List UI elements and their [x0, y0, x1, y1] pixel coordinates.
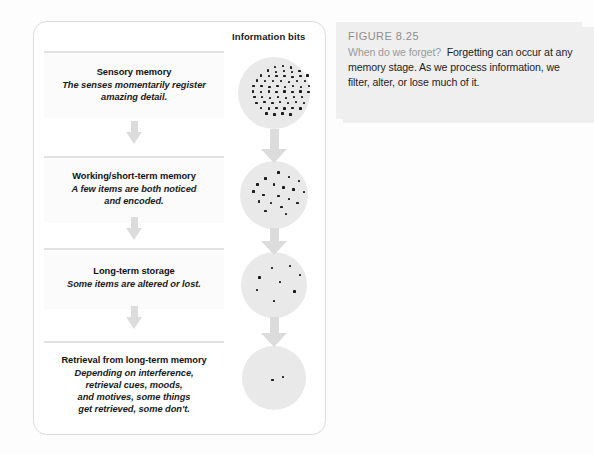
stage-title: Long-term storage	[44, 265, 224, 278]
information-bit-dot	[263, 101, 265, 103]
information-bit-dot	[271, 102, 273, 104]
information-bit-dot	[289, 265, 291, 267]
information-bit-dot	[273, 113, 275, 115]
information-bit-dot	[260, 74, 262, 76]
information-bits-circle-longterm	[241, 252, 307, 318]
information-bit-dot	[275, 107, 277, 109]
information-bit-dot	[283, 90, 285, 92]
information-bit-dot	[288, 81, 290, 83]
stage-flow-arrow-2	[126, 217, 142, 240]
stage-row-sensory-memory: Sensory memory The senses momentarily re…	[44, 66, 224, 103]
stage-divider-3	[44, 248, 224, 250]
information-bit-dot	[291, 107, 293, 109]
connector-shaft	[270, 317, 279, 334]
information-bit-dot	[277, 171, 279, 173]
stage-title: Working/short-term memory	[44, 170, 224, 183]
stage-divider-2	[44, 156, 224, 158]
information-bit-dot	[280, 80, 282, 82]
connector-shaft	[270, 129, 279, 150]
scanned-page: FIGURE 8.25 When do we forget? Forgettin…	[0, 0, 594, 454]
information-bit-dot	[258, 276, 260, 278]
information-bit-dot	[292, 188, 294, 190]
information-bit-dot	[307, 91, 309, 93]
stage-flow-arrow-1	[126, 121, 142, 144]
stage-divider-1	[44, 51, 224, 53]
information-bit-dot	[253, 96, 255, 98]
information-bit-dot	[268, 75, 270, 77]
information-bit-dot	[264, 80, 266, 82]
bits-flow-connector-1	[261, 129, 287, 163]
arrow-head	[126, 132, 142, 144]
connector-head	[261, 333, 287, 347]
information-bit-dot	[291, 91, 293, 93]
stage-row-working-memory: Working/short-term memory A few items ar…	[44, 170, 224, 207]
figure-caption-content: FIGURE 8.25 When do we forget? Forgettin…	[348, 29, 584, 90]
stage-description-line: The senses momentarily register	[44, 79, 224, 91]
stage-description-line: and encoded.	[44, 195, 224, 207]
stage-row-long-term-storage: Long-term storage Some items are altered…	[44, 265, 224, 290]
information-bit-dot	[299, 274, 301, 276]
information-bit-dot	[277, 96, 279, 98]
information-bit-dot	[277, 195, 279, 197]
information-bits-circle-sensory	[238, 57, 310, 129]
connector-head	[261, 149, 287, 163]
stage-description-line: A few items are both noticed	[44, 183, 224, 195]
information-bit-dot	[282, 186, 284, 188]
information-bit-dot	[295, 101, 297, 103]
information-bit-dot	[282, 376, 284, 378]
information-bit-dot	[296, 80, 298, 82]
information-bit-dot	[285, 97, 287, 99]
information-bit-dot	[298, 70, 300, 72]
figure-number-label: FIGURE 8.25	[348, 29, 584, 44]
information-bit-dot	[270, 202, 272, 204]
information-bit-dot	[288, 198, 290, 200]
information-bit-dot	[260, 85, 262, 87]
information-bit-dot	[293, 96, 295, 98]
information-bit-dot	[273, 183, 275, 185]
information-bit-dot	[281, 112, 283, 114]
information-bit-dot	[289, 113, 291, 115]
stage-title: Sensory memory	[44, 66, 224, 79]
information-bit-dot	[290, 66, 292, 68]
stage-description-line: get retrieved, some don't.	[44, 403, 224, 415]
information-bit-dot	[262, 194, 264, 196]
information-bit-dot	[304, 80, 306, 82]
information-bit-dot	[265, 112, 267, 114]
stage-description-line: amazing detail.	[44, 91, 224, 103]
information-bit-dot	[283, 107, 285, 109]
information-bit-dot	[283, 75, 285, 77]
information-bit-dot	[280, 206, 282, 208]
information-bit-dot	[261, 96, 263, 98]
information-bit-dot	[282, 65, 284, 67]
stage-description-line: Some items are altered or lost.	[44, 278, 224, 290]
information-bit-dot	[273, 300, 275, 302]
information-bit-dot	[291, 71, 293, 73]
information-bit-dot	[299, 75, 301, 77]
information-bit-dot	[279, 281, 281, 283]
information-bit-dot	[288, 176, 290, 178]
information-bit-dot	[303, 191, 305, 193]
information-bit-dot	[269, 97, 271, 99]
information-bit-dot	[252, 90, 254, 92]
information-bit-dot	[260, 107, 262, 109]
information-bit-dot	[299, 107, 301, 109]
information-bit-dot	[275, 71, 277, 73]
information-bit-dot	[256, 289, 258, 291]
information-bit-dot	[264, 177, 266, 179]
information-bit-dot	[285, 213, 287, 215]
information-bit-dot	[258, 200, 260, 202]
information-bit-dot	[300, 86, 302, 88]
information-bit-dot	[255, 102, 257, 104]
information-bit-dot	[291, 76, 293, 78]
information-bit-dot	[283, 70, 285, 72]
information-bit-dot	[299, 90, 301, 92]
information-bit-dot	[268, 90, 270, 92]
information-bit-dot	[256, 183, 258, 185]
information-bit-dot	[279, 101, 281, 103]
information-bit-dot	[264, 210, 266, 212]
arrow-head	[126, 228, 142, 240]
information-bit-dot	[274, 66, 276, 68]
information-bit-dot	[256, 79, 258, 81]
information-bit-dot	[275, 91, 277, 93]
information-bits-column-header: Information bits	[232, 31, 305, 42]
